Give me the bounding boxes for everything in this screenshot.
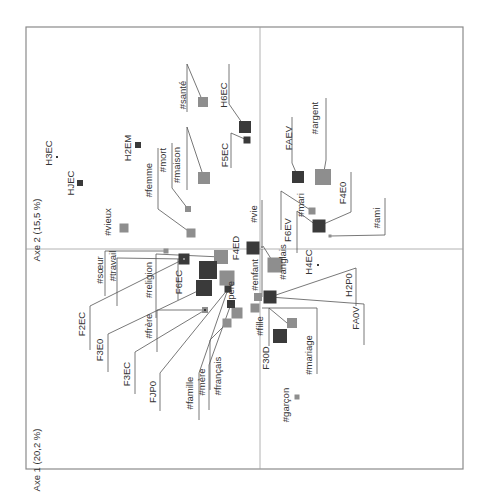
point-label-h3ec: H3EC (43, 140, 54, 165)
point-marker-enfant (254, 293, 262, 301)
point-label-femme: #femme (143, 163, 154, 197)
axis-labels: Axe 2 (15,5 %)Axe 1 (20,2 %) (31, 199, 42, 492)
point-marker-francais (223, 319, 232, 328)
point-marker-argent (315, 169, 331, 185)
point-label-hjec: HJEC (65, 170, 76, 195)
point-marker-mari (309, 208, 316, 215)
point-marker-vieux (120, 224, 129, 233)
point-marker-maison (198, 172, 210, 184)
point-label-mere: #mère (196, 369, 207, 396)
point-label-garcon: #garçon (280, 388, 291, 422)
point-label-francais: #français (212, 356, 223, 395)
point-label-mari: #mari (295, 193, 306, 217)
point-marker-sur (164, 249, 169, 254)
point-labels: #santéH6ECF5ECH2EMH3ECHJEC#maison#mort#f… (43, 81, 382, 422)
point-label-h6ec: H6EC (218, 82, 229, 107)
point-label-f5ec: F5EC (219, 143, 230, 167)
point-marker-fa0v (268, 295, 272, 299)
point-label-vieux: #vieux (102, 208, 113, 236)
point-label-enfant: #enfant (249, 259, 260, 291)
point-marker-mariage (287, 318, 297, 328)
point-marker-h2em (135, 142, 141, 148)
point-label-ami: #ami (371, 208, 382, 229)
leader-line-maison (187, 127, 204, 178)
point-marker-hjec (77, 180, 83, 186)
point-label-f4e0: F4E0 (337, 182, 348, 205)
point-marker-f5ec (244, 137, 251, 144)
point-marker-h3ec (56, 156, 58, 158)
leader-line-femme (158, 209, 191, 233)
point-label-fjp0: FJP0 (147, 381, 158, 403)
point-label-vie: #vie (248, 205, 259, 222)
point-label-f4ed: F4ED (230, 236, 241, 260)
point-label-f30d: F30D (260, 346, 271, 369)
point-marker-f3e0 (196, 280, 212, 296)
point-marker-femme (187, 229, 196, 238)
point-label-pere: #père (225, 281, 236, 305)
axis-1-label: Axe 1 (20,2 %) (31, 429, 42, 492)
point-marker-fille (251, 304, 260, 313)
point-marker-f6ev (318, 226, 322, 230)
point-label-f6ec: F6EC (173, 270, 184, 294)
point-marker-famille (232, 308, 243, 319)
leader-line-sante (187, 64, 203, 102)
point-label-f3e0: F3E0 (94, 339, 105, 362)
point-label-famille: #famille (184, 377, 195, 410)
point-label-fille: #fille (254, 316, 265, 336)
point-marker-f4ed (247, 242, 260, 255)
point-marker-f3ec (204, 309, 206, 311)
point-marker-h6ec (239, 121, 251, 133)
point-label-anglais: #anglais (277, 244, 288, 280)
point-marker-travail (183, 258, 185, 260)
point-marker-h4ec (317, 264, 319, 266)
correspondence-analysis-plot: #santéH6ECF5ECH2EMH3ECHJEC#maison#mort#f… (0, 0, 486, 492)
point-label-f6ev: F6EV (282, 217, 293, 241)
point-marker-f30d (273, 329, 287, 343)
point-label-f2ec: F2EC (76, 312, 87, 336)
point-marker-sante (198, 97, 208, 107)
point-marker-garcon (295, 395, 300, 400)
leader-line-travail (117, 258, 184, 259)
point-label-h4ec: H4EC (303, 249, 314, 274)
point-marker-vie (261, 246, 263, 248)
point-marker-faev (292, 171, 304, 183)
axis-2-label: Axe 2 (15,5 %) (31, 199, 42, 262)
point-label-sur: #sœur (94, 256, 105, 283)
leader-line-f30d (269, 308, 287, 323)
point-label-faev: FAEV (283, 125, 294, 150)
point-marker-ami (329, 235, 332, 238)
leader-line-mort (172, 188, 188, 209)
leader-line-fa0v (270, 297, 364, 304)
point-label-frere: #frère (143, 314, 154, 339)
point-label-fa0v: FA0V (350, 306, 361, 330)
point-label-mariage: #mariage (303, 335, 314, 375)
plot-frame (26, 27, 463, 469)
point-label-travail: #travail (107, 251, 118, 282)
point-label-maison: #maison (171, 147, 182, 183)
point-label-argent: #argent (309, 102, 320, 135)
leader-line-ami (330, 235, 385, 236)
point-label-mort: #mort (157, 148, 168, 173)
point-label-f3ec: F3EC (121, 362, 132, 386)
point-label-h2p0: H2P0 (343, 273, 354, 297)
point-label-h2em: H2EM (122, 135, 133, 161)
point-marker-f2ec (199, 261, 217, 279)
point-label-religion: #religion (143, 262, 154, 298)
point-label-sante: #santé (177, 81, 188, 110)
point-marker-mort (185, 206, 191, 212)
